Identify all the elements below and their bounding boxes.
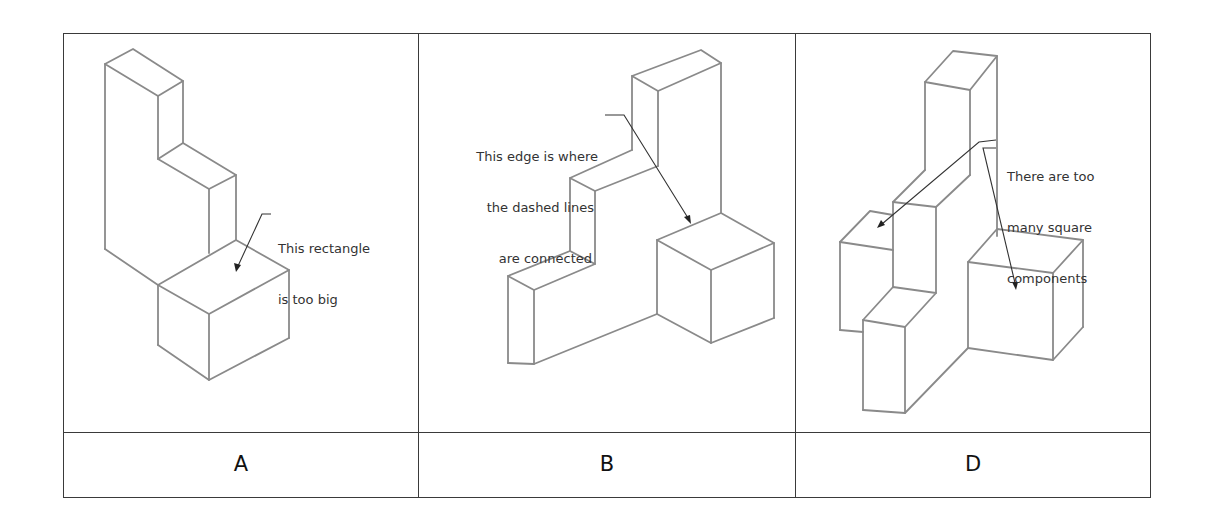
annotation-d: There are too many square components — [1007, 134, 1095, 304]
annotation-line: components — [1007, 270, 1095, 287]
annotation-line: This rectangle — [278, 240, 370, 257]
figure-a — [105, 49, 289, 380]
annotation-a: This rectangle is too big — [278, 206, 370, 325]
annotation-line: are connected — [438, 250, 598, 267]
annotation-line: There are too — [1007, 168, 1095, 185]
annotation-line: many square — [1007, 219, 1095, 236]
annotation-line: is too big — [278, 291, 370, 308]
annotation-line: This edge is where — [438, 148, 598, 165]
annotation-b: This edge is where the dashed lines are … — [438, 114, 598, 284]
annotation-line: the dashed lines — [438, 199, 598, 216]
